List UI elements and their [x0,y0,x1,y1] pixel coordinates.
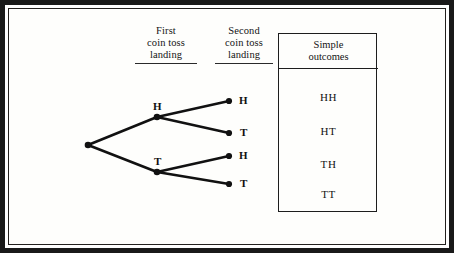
coin-toss-tree [0,0,454,253]
outcome-item: HH [279,91,378,103]
tree-edge [157,172,229,184]
outcomes-header-line2: outcomes [279,51,378,63]
outcomes-header-line1: Simple [279,39,378,51]
simple-outcomes-header: Simple outcomes [279,34,378,69]
simple-outcomes-list: HHHTTHTT [279,69,378,212]
leaf-label-th: H [239,149,248,161]
tree-node-dot [154,169,161,176]
tree-node-dot [226,181,232,187]
node-label-first-t: T [154,155,161,167]
leaf-label-tt: T [240,177,247,189]
tree-node-dot [226,153,232,159]
diagram-stage: First coin toss landing Second coin toss… [0,0,454,253]
leaf-label-hh: H [239,94,248,106]
leaf-label-ht: T [240,126,247,138]
outcome-item: HT [279,125,378,137]
simple-outcomes-box: Simple outcomes HHHTTHTT [278,33,377,212]
figure-canvas: First coin toss landing Second coin toss… [0,0,454,253]
tree-node-dot [226,98,232,104]
tree-edge [157,156,229,172]
tree-node-dot [85,142,92,149]
tree-edge [157,117,229,133]
outcome-item: TT [279,188,378,200]
outcome-item: TH [279,158,378,170]
tree-edge [88,117,157,145]
tree-node-dot [226,130,232,136]
tree-edge [157,101,229,117]
node-label-first-h: H [153,100,162,112]
tree-edge [88,145,157,172]
tree-node-dot [154,114,161,121]
